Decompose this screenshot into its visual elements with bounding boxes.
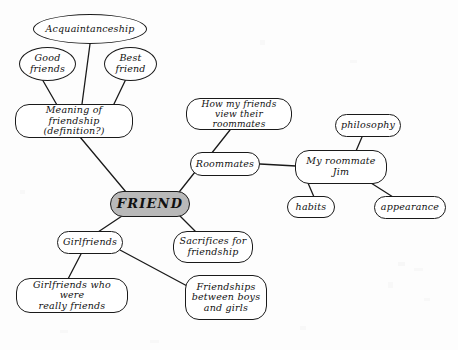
node-label-girlfriends_really_friends: Girlfriends who were really friends	[20, 280, 124, 312]
node-label-meaning_of_friendship: Meaning of friendship (definition?)	[19, 105, 129, 137]
node-label-habits: habits	[296, 202, 327, 213]
node-philosophy[interactable]: philosophy	[335, 114, 401, 137]
node-roommates[interactable]: Roommates	[190, 152, 260, 176]
node-label-how_my_friends_view: How my friends view their roommates	[190, 99, 288, 129]
node-how_my_friends_view[interactable]: How my friends view their roommates	[186, 98, 292, 130]
edge-my_roommate_jim-to-appearance	[371, 183, 393, 197]
node-acquaintanceship[interactable]: Acquaintanceship	[33, 14, 147, 44]
node-label-philosophy: philosophy	[341, 120, 395, 131]
node-habits[interactable]: habits	[287, 196, 335, 218]
edge-acquaintanceship-to-meaning_of_friendship	[82, 44, 90, 104]
node-label-acquaintanceship: Acquaintanceship	[45, 24, 134, 35]
node-label-sacrifices: Sacrifices for friendship	[179, 236, 246, 257]
node-label-my_roommate_jim: My roommate Jim	[306, 156, 375, 177]
edge-roommates-to-my_roommate_jim	[260, 164, 296, 166]
node-label-friend: FRIEND	[117, 197, 183, 212]
node-girlfriends[interactable]: Girlfriends	[57, 231, 123, 254]
node-sacrifices[interactable]: Sacrifices for friendship	[173, 231, 253, 263]
node-appearance[interactable]: appearance	[374, 196, 446, 219]
edge-meaning_of_friendship-to-friend	[80, 137, 126, 192]
node-label-best_friend: Best friend	[115, 53, 145, 74]
edge-friend-to-girlfriends	[98, 216, 122, 232]
node-label-roommates: Roommates	[196, 159, 254, 170]
edge-friend-to-sacrifices	[180, 216, 196, 232]
node-label-girlfriends: Girlfriends	[63, 237, 117, 248]
node-friend[interactable]: FRIEND	[110, 191, 190, 217]
node-good_friends[interactable]: Good friends	[19, 47, 76, 81]
node-label-appearance: appearance	[381, 202, 439, 213]
node-my_roommate_jim[interactable]: My roommate Jim	[295, 150, 387, 184]
node-meaning_of_friendship[interactable]: Meaning of friendship (definition?)	[15, 104, 133, 138]
node-label-friendships_boys_girls: Friendships between boys and girls	[192, 282, 260, 314]
concept-map-canvas: AcquaintanceshipGood friendsBest friendM…	[0, 0, 458, 350]
edge-best_friend-to-meaning_of_friendship	[113, 79, 126, 106]
edge-girlfriends-to-girlfriends_really_friends	[68, 254, 81, 279]
edge-how_my_friends_view-to-roommates	[211, 130, 230, 154]
edge-my_roommate_jim-to-habits	[308, 183, 314, 197]
node-label-good_friends: Good friends	[30, 53, 65, 74]
edge-philosophy-to-my_roommate_jim	[356, 137, 362, 151]
edge-good_friends-to-meaning_of_friendship	[42, 79, 57, 105]
node-best_friend[interactable]: Best friend	[104, 47, 157, 81]
node-friendships_boys_girls[interactable]: Friendships between boys and girls	[185, 275, 267, 320]
node-girlfriends_really_friends[interactable]: Girlfriends who were really friends	[16, 278, 128, 313]
